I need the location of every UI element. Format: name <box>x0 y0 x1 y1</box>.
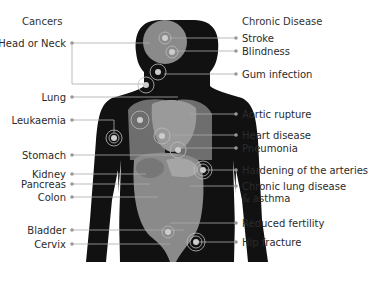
label-lung: Lung <box>42 92 66 103</box>
label-gum-infection: Gum infection <box>242 69 312 80</box>
label-cervix: Cervix <box>34 239 66 250</box>
label-hip-fracture: Hip fracture <box>242 237 301 248</box>
label-chronic-lung-disease: Chronic lung disease <box>242 181 346 192</box>
label-stomach: Stomach <box>22 150 66 161</box>
label-pancreas: Pancreas <box>21 179 66 190</box>
label-blindness: Blindness <box>242 46 290 57</box>
label-hardening-arteries: Hardening of the arteries <box>242 165 368 176</box>
cancers-heading: Cancers <box>22 16 62 27</box>
label-colon: Colon <box>38 192 66 203</box>
label-pneumonia: Pneumonia <box>242 143 298 154</box>
label-reduced-fertility: Reduced fertility <box>242 218 324 229</box>
label-stroke: Stroke <box>242 33 274 44</box>
label-aortic-rupture: Aortic rupture <box>242 109 311 120</box>
label-heart-disease: Heart disease <box>242 130 311 141</box>
label-leukaemia: Leukaemia <box>12 115 66 126</box>
label-asthma: & asthma <box>242 193 290 204</box>
chronic-disease-heading: Chronic Disease <box>242 16 322 27</box>
label-bladder: Bladder <box>27 225 66 236</box>
label-head-or-neck: Head or Neck <box>0 38 66 49</box>
